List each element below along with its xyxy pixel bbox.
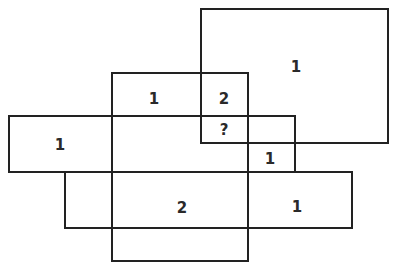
label-bottom-bar-right: 1 [292, 200, 302, 215]
puzzle-diagram: 1 1 2 ? 1 1 2 1 [0, 0, 394, 269]
label-tall-big-overlap: 2 [219, 92, 229, 107]
rect-bottom-bar [64, 171, 353, 229]
label-tall-top: 1 [149, 92, 159, 107]
label-left-bar-only: 1 [55, 138, 65, 153]
rect-left-bar [8, 115, 296, 173]
label-big-square-only: 1 [291, 60, 301, 75]
label-left-big-overlap: 1 [265, 152, 275, 167]
label-tall-bottom-overlap: 2 [177, 201, 187, 216]
label-triple-overlap-question: ? [220, 123, 229, 138]
